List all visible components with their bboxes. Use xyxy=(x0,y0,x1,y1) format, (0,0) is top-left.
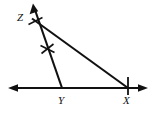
arrowhead-right-icon xyxy=(138,84,148,92)
geometry-figure: Z Y X xyxy=(0,0,153,116)
vertex-label-y: Y xyxy=(58,95,64,106)
ray-Y-through-Z xyxy=(30,3,62,88)
segment-Z-to-X-body xyxy=(32,19,128,89)
vertex-label-x: X xyxy=(123,95,130,106)
vertex-label-z: Z xyxy=(17,12,23,23)
arrowhead-left-icon xyxy=(8,84,18,92)
segment-Z-to-X xyxy=(32,19,128,89)
